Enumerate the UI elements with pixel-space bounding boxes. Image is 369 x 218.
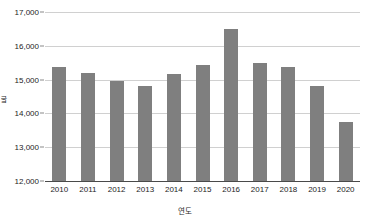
bar xyxy=(224,29,238,181)
bars-layer xyxy=(45,12,360,181)
y-axis-tick-mark xyxy=(40,113,44,114)
x-axis-tick-label: 2017 xyxy=(251,185,269,194)
y-axis-tick-label: 16,000 xyxy=(15,41,39,50)
x-axis-tick-label: 2018 xyxy=(280,185,298,194)
x-axis-tick-label: 2015 xyxy=(194,185,212,194)
y-axis-tick-label: 14,000 xyxy=(15,109,39,118)
x-axis-line xyxy=(45,181,360,182)
bar-chart: 톤 12,00013,00014,00015,00016,00017,000 2… xyxy=(0,0,369,218)
y-axis-title: 톤 xyxy=(0,90,14,110)
bar xyxy=(253,63,267,181)
bar xyxy=(138,86,152,181)
y-axis-tick-label: 12,000 xyxy=(15,177,39,186)
bar xyxy=(196,65,210,181)
x-axis-tick-label: 2014 xyxy=(165,185,183,194)
bar xyxy=(339,122,353,181)
y-axis-tick-mark xyxy=(40,181,44,182)
x-axis-tick-label: 2010 xyxy=(50,185,68,194)
y-axis-tick-mark xyxy=(40,79,44,80)
y-axis-tick-label: 17,000 xyxy=(15,8,39,17)
y-axis-tick-mark xyxy=(40,147,44,148)
x-axis-tick-label: 2011 xyxy=(79,185,96,194)
x-axis-title: 연도 xyxy=(0,205,369,216)
x-axis-tick-label: 2012 xyxy=(108,185,126,194)
bar xyxy=(310,86,324,181)
y-axis-tick-mark xyxy=(40,12,44,13)
bar xyxy=(167,74,181,181)
y-axis-tick-label: 15,000 xyxy=(15,75,39,84)
bar xyxy=(281,67,295,181)
plot-area: 12,00013,00014,00015,00016,00017,000 xyxy=(45,12,360,181)
bar xyxy=(110,81,124,181)
y-axis-tick-mark xyxy=(40,45,44,46)
x-axis-tick-label: 2020 xyxy=(337,185,355,194)
bar xyxy=(81,73,95,181)
x-axis-tick-label: 2019 xyxy=(308,185,326,194)
y-axis-tick-label: 13,000 xyxy=(15,143,39,152)
x-axis-tick-label: 2016 xyxy=(222,185,240,194)
bar xyxy=(52,67,66,181)
x-axis-tick-label: 2013 xyxy=(136,185,154,194)
